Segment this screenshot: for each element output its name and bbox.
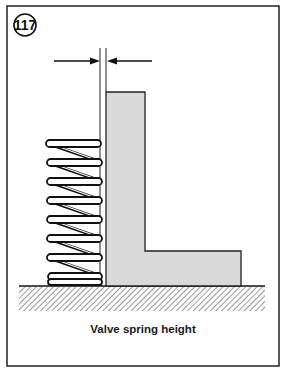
coil-spring <box>46 140 102 285</box>
ground-surface <box>19 286 265 311</box>
figure-number-badge: 117 <box>14 14 37 36</box>
dimension-arrow-right-icon <box>107 58 152 65</box>
valve-spring-diagram: 117 <box>0 0 286 374</box>
figure-caption: Valve spring height <box>0 323 286 335</box>
figure-number: 117 <box>14 17 37 33</box>
valve-block <box>106 92 241 286</box>
dimension-arrow-left-icon <box>54 58 100 65</box>
